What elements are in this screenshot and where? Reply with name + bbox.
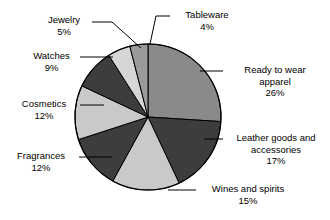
slice-label-ready-to-wear: Ready to wear apparel 26% [225, 64, 325, 99]
pie-chart-figure: Jewelry 5% Tableware 4% Watches 9% Cosme… [0, 0, 330, 220]
pie-slice-ready-to-wear[interactable] [148, 44, 221, 122]
slice-label-jewelry-name: Jewelry [48, 14, 80, 25]
slice-label-leather-goods-name: Leather goods and [236, 132, 315, 143]
slice-label-jewelry-percent: 5% [38, 26, 90, 38]
slice-label-wines-and-spirits-percent: 15% [198, 195, 298, 207]
slice-label-watches: Watches 9% [24, 50, 79, 73]
leader-line-jewelry [92, 22, 141, 48]
slice-label-wines-and-spirits: Wines and spirits 15% [198, 183, 298, 206]
slice-label-watches-percent: 9% [24, 62, 79, 74]
slice-label-watches-name: Watches [33, 50, 70, 61]
slice-label-cosmetics-percent: 12% [10, 110, 78, 122]
slice-label-leather-goods-name2: accessories [225, 144, 327, 156]
slice-label-tableware: Tableware 4% [172, 9, 242, 32]
slice-label-fragrances-percent: 12% [5, 162, 77, 174]
slice-label-fragrances: Fragrances 12% [5, 150, 77, 173]
slice-label-leather-goods-percent: 17% [225, 155, 327, 167]
slice-label-tableware-name: Tableware [185, 9, 228, 20]
slice-label-ready-to-wear-percent: 26% [225, 87, 325, 99]
slice-label-ready-to-wear-name: Ready to wear [244, 64, 305, 75]
leader-line-tableware [150, 16, 170, 44]
slice-label-cosmetics-name: Cosmetics [22, 98, 66, 109]
slice-label-wines-and-spirits-name: Wines and spirits [212, 183, 284, 194]
pie-slices-group [75, 44, 221, 190]
slice-label-fragrances-name: Fragrances [17, 150, 65, 161]
slice-label-cosmetics: Cosmetics 12% [10, 98, 78, 121]
slice-label-tableware-percent: 4% [172, 21, 242, 33]
slice-label-jewelry: Jewelry 5% [38, 14, 90, 37]
slice-label-ready-to-wear-name2: apparel [225, 76, 325, 88]
slice-label-leather-goods: Leather goods and accessories 17% [225, 132, 327, 167]
